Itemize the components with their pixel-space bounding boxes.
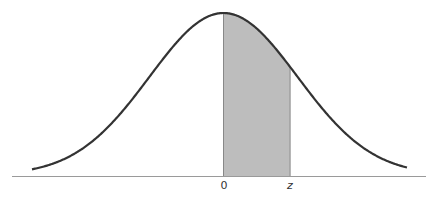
normal-curve-chart: 0 z [0, 0, 436, 201]
tick-label-z: z [286, 179, 293, 192]
shaded-area-0-to-z [224, 13, 291, 176]
normal-curve [32, 13, 407, 169]
tick-label-zero: 0 [221, 179, 228, 192]
